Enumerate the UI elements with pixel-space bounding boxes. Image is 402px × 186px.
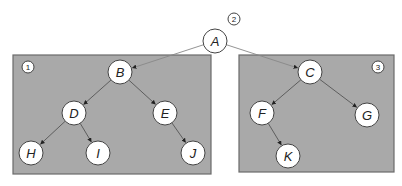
node-label: D xyxy=(69,106,78,121)
node-label: A xyxy=(210,34,220,49)
badge-label: 2 xyxy=(232,15,237,24)
node-d: D xyxy=(62,101,86,125)
node-label: J xyxy=(189,146,197,161)
badge-label: 3 xyxy=(376,63,381,72)
node-h: H xyxy=(19,141,43,165)
node-label: E xyxy=(161,106,170,121)
node-k: K xyxy=(276,144,300,168)
node-f: F xyxy=(250,101,274,125)
badge-3: 3 xyxy=(372,61,384,73)
badge-2: 2 xyxy=(228,13,240,25)
node-label: G xyxy=(362,108,372,123)
node-e: E xyxy=(153,101,177,125)
node-label: H xyxy=(26,146,36,161)
node-i: I xyxy=(86,141,110,165)
node-j: J xyxy=(181,141,205,165)
node-g: G xyxy=(355,103,379,127)
node-label: C xyxy=(305,65,315,80)
node-label: F xyxy=(258,106,267,121)
node-label: I xyxy=(96,146,100,161)
node-a: A xyxy=(203,29,227,53)
node-c: C xyxy=(298,60,322,84)
node-label: K xyxy=(284,149,294,164)
node-label: B xyxy=(116,65,125,80)
node-b: B xyxy=(108,60,132,84)
badge-1: 1 xyxy=(22,61,34,73)
badge-label: 1 xyxy=(26,63,31,72)
tree-diagram: ABCDEFGHIJK 132 xyxy=(0,0,402,186)
